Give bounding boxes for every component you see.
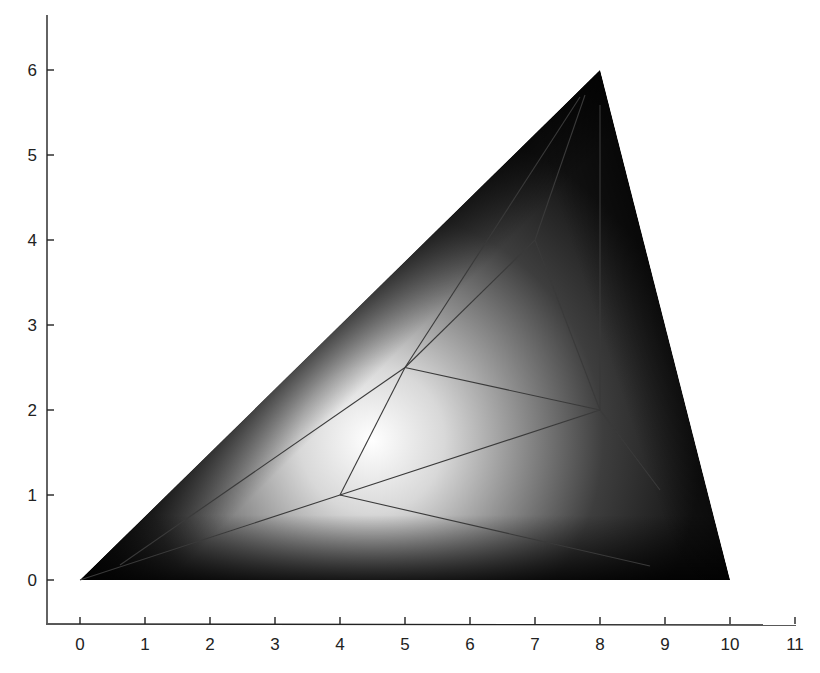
y-tick-label: 6 xyxy=(28,61,37,80)
y-tick-label: 4 xyxy=(28,231,37,250)
x-tick-label: 5 xyxy=(400,635,409,654)
shaded-triangle xyxy=(80,70,730,580)
x-tick-label: 11 xyxy=(786,635,804,654)
x-tick-label: 9 xyxy=(660,635,669,654)
x-tick-labels: 0 1 2 3 4 5 6 7 8 9 10 11 xyxy=(75,635,804,654)
y-axis xyxy=(47,15,54,623)
triangulation-plot: 0 1 2 3 4 5 6 0 1 2 3 4 5 6 7 8 9 10 11 xyxy=(0,0,820,673)
y-tick-label: 3 xyxy=(28,316,37,335)
y-tick-label: 0 xyxy=(28,571,37,590)
y-tick-labels: 0 1 2 3 4 5 6 xyxy=(28,61,37,590)
x-tick-label: 6 xyxy=(465,635,474,654)
x-axis xyxy=(46,617,796,625)
x-tick-label: 7 xyxy=(530,635,539,654)
y-tick-label: 2 xyxy=(28,401,37,420)
x-tick-label: 1 xyxy=(140,635,149,654)
x-tick-label: 2 xyxy=(205,635,214,654)
x-tick-label: 3 xyxy=(270,635,279,654)
y-tick-label: 5 xyxy=(28,146,37,165)
x-tick-label: 0 xyxy=(75,635,84,654)
x-tick-label: 8 xyxy=(595,635,604,654)
y-tick-label: 1 xyxy=(28,486,37,505)
x-tick-label: 4 xyxy=(335,635,344,654)
x-tick-label: 10 xyxy=(721,635,740,654)
